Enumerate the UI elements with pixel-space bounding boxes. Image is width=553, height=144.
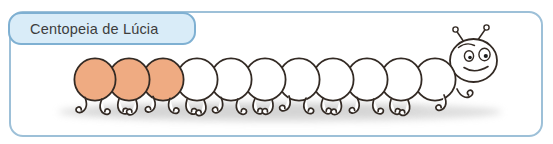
activity-label-text: Centopeia de Lúcia <box>30 21 159 37</box>
caterpillar-foot <box>457 82 475 100</box>
head-eye-left <box>464 51 473 61</box>
caterpillar-head <box>450 25 497 82</box>
worksheet-panel: Centopeia de Lúcia <box>0 0 553 144</box>
body-segment-group <box>74 58 115 100</box>
body-segment-1-orange <box>74 58 115 100</box>
activity-label: Centopeia de Lúcia <box>8 12 196 45</box>
